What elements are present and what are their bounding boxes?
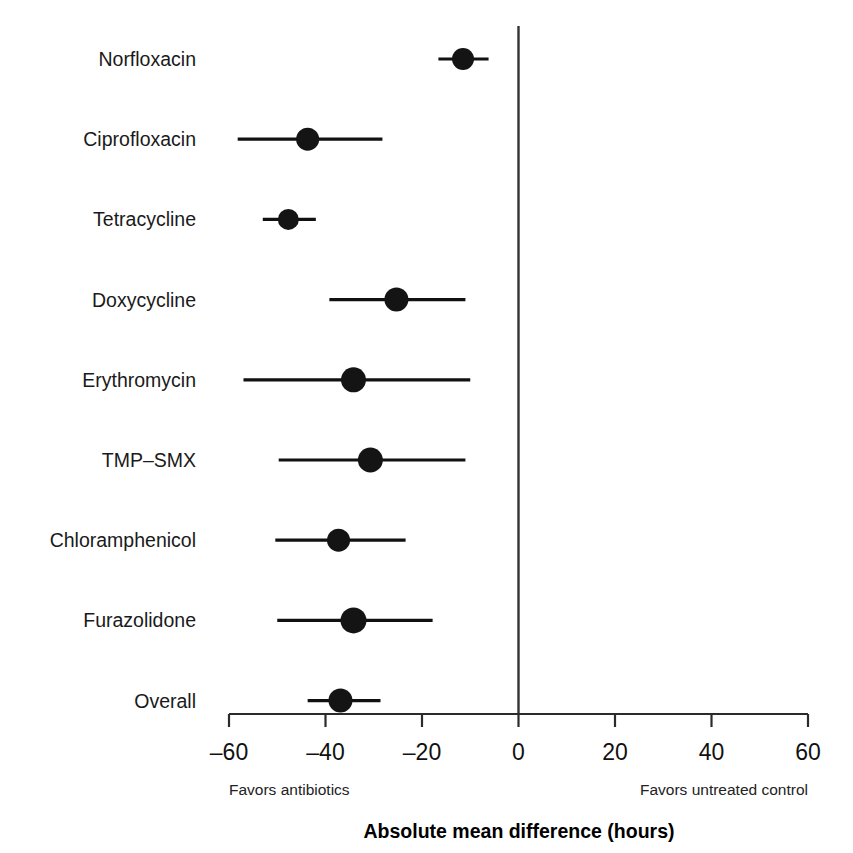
- x-tick-label: 40: [699, 739, 725, 765]
- row-label: Norfloxacin: [98, 48, 196, 70]
- x-tick-label: 0: [512, 739, 525, 765]
- row-label: Furazolidone: [83, 609, 196, 631]
- point-estimate-marker: [340, 607, 366, 633]
- x-tick-label: 20: [602, 739, 628, 765]
- x-tick-label: 60: [795, 739, 821, 765]
- row-label: TMP–SMX: [102, 449, 196, 471]
- x-axis-title: Absolute mean difference (hours): [364, 820, 675, 842]
- favors-antibiotics-note: Favors antibiotics: [229, 781, 350, 798]
- point-estimate-marker: [358, 448, 383, 473]
- row-label: Erythromycin: [82, 369, 196, 391]
- row-label: Ciprofloxacin: [83, 128, 196, 150]
- x-tick-label: –60: [210, 739, 248, 765]
- point-estimate-marker: [278, 209, 299, 230]
- point-estimate-marker: [296, 128, 319, 151]
- point-estimate-marker: [341, 367, 366, 392]
- point-estimate-marker: [384, 288, 408, 312]
- row-label: Overall: [134, 690, 196, 712]
- x-tick-label: –40: [306, 739, 344, 765]
- row-label: Doxycycline: [92, 289, 196, 311]
- row-label: Chloramphenicol: [50, 529, 196, 551]
- point-estimate-marker: [452, 48, 474, 70]
- row-label: Tetracycline: [93, 208, 196, 230]
- favors-untreated-control-note: Favors untreated control: [640, 781, 808, 798]
- x-tick-label: –20: [403, 739, 441, 765]
- forest-plot-canvas: NorfloxacinCiprofloxacinTetracyclineDoxy…: [0, 0, 853, 853]
- forest-plot-figure: NorfloxacinCiprofloxacinTetracyclineDoxy…: [0, 0, 853, 853]
- point-estimate-marker: [327, 529, 350, 552]
- point-estimate-marker: [328, 689, 352, 713]
